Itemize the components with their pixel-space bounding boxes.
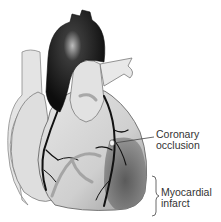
coronary-occlusion-label-line2: occlusion [156,140,200,151]
pulmonary-trunk [70,60,104,122]
coronary-occlusion-label: Coronary occlusion [156,129,200,151]
infarct-bracket [152,176,159,216]
myocardial-infarct-label: Myocardial infarct [161,187,212,209]
myocardial-infarct-label-line2: infarct [161,198,212,209]
occlusion-marker [110,140,115,146]
pulmonary-artery [100,58,133,86]
